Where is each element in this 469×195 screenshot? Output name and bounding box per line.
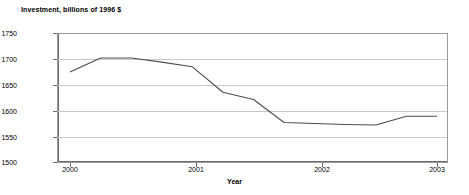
investment-line-chart: Investment, billions of 1996 $ 1750 1700… [0, 0, 469, 195]
series-investment [57, 33, 448, 163]
y-tick-label-1600: 1600 [0, 108, 17, 115]
x-tick-label-2003: 2003 [417, 166, 457, 173]
y-tick-label-1550: 1550 [0, 134, 17, 141]
y-tick-label-1500: 1500 [0, 159, 17, 166]
x-tick-label-2000: 2000 [50, 166, 90, 173]
x-axis-title: Year [0, 178, 469, 185]
y-tick-label-1650: 1650 [0, 82, 17, 89]
x-tick-label-2002: 2002 [302, 166, 342, 173]
x-tick-label-2001: 2001 [176, 166, 216, 173]
series-line [70, 58, 437, 125]
chart-title: Investment, billions of 1996 $ [21, 6, 121, 13]
y-tick-label-1750: 1750 [0, 30, 17, 37]
y-tick-label-1700: 1700 [0, 56, 17, 63]
